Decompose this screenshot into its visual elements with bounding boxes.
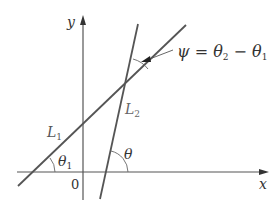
y-axis-arrow-icon — [80, 15, 86, 25]
l1-subscript: 1 — [56, 132, 62, 142]
y-axis-label: y — [67, 15, 75, 29]
line-l1 — [18, 25, 186, 186]
equals-sign: = — [195, 42, 208, 61]
theta1-label: θ1 — [58, 154, 72, 171]
l2-name: L — [125, 101, 134, 117]
minus-sign: − — [234, 42, 247, 61]
l2-subscript: 2 — [134, 109, 140, 119]
psi-symbol: ψ — [177, 42, 190, 61]
theta1-eq-symbol: θ — [252, 42, 262, 61]
theta1-subscript: 1 — [66, 161, 72, 171]
psi-pointer-arrow-icon — [141, 56, 151, 62]
theta1-arc — [50, 158, 55, 172]
l1-name: L — [47, 124, 56, 140]
line-l2-label: L2 — [125, 102, 140, 119]
theta2-subscript: 2 — [223, 52, 229, 62]
x-axis-arrow-icon — [259, 169, 269, 175]
theta1-eq-subscript: 1 — [262, 52, 268, 62]
psi-pointer-line — [147, 50, 173, 60]
x-axis-label: x — [259, 177, 267, 191]
theta-label: θ — [124, 147, 132, 161]
theta2-symbol: θ — [213, 42, 223, 61]
line-l1-label: L1 — [47, 125, 62, 142]
angle-between-lines-diagram: y x 0 L1 L2 θ1 θ ψ = θ2 − θ1 — [0, 0, 277, 213]
psi-equation: ψ = θ2 − θ1 — [177, 44, 267, 62]
origin-label: 0 — [71, 178, 79, 191]
